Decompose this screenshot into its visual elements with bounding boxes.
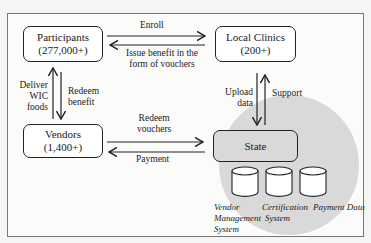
deliver-label: Deliver WIC foods (13, 80, 48, 113)
upload-label: Upload data (222, 87, 253, 109)
redeem-benefit-line-2: benefit (68, 97, 99, 108)
vendor-db-line-1: Vendor (214, 202, 261, 213)
vendor-db-label: Vendor Management System (214, 202, 261, 235)
payment-db-label: Payment Data (313, 202, 365, 213)
vendor-db-icon (230, 166, 260, 198)
upload-line-1: Upload (222, 87, 253, 98)
upload-line-2: data (222, 98, 253, 109)
redeem-benefit-label: Redeem benefit (68, 86, 99, 108)
vendor-db-line-2: Management (214, 213, 261, 224)
redeem-benefit-line-1: Redeem (68, 86, 99, 97)
certification-db-icon (264, 166, 294, 198)
enroll-label: Enroll (140, 20, 164, 31)
redeem-vouchers-line-2: vouchers (137, 124, 171, 135)
issue-benefit-label: Issue benefit in the form of vouchers (126, 48, 198, 70)
redeem-vouchers-label: Redeem vouchers (137, 113, 171, 135)
deliver-line-2: WIC (13, 91, 48, 102)
payment-db-line-1: Payment Data (313, 202, 365, 213)
support-label: Support (272, 88, 302, 99)
certification-db-line-2: System (262, 213, 308, 224)
issue-benefit-line-1: Issue benefit in the (126, 48, 198, 59)
deliver-line-3: foods (13, 102, 48, 113)
certification-db-line-1: Certification (262, 202, 308, 213)
payment-label: Payment (136, 154, 169, 165)
vendor-db-line-3: System (214, 224, 261, 235)
deliver-line-1: Deliver (13, 80, 48, 91)
issue-benefit-line-2: form of vouchers (126, 59, 198, 70)
payment-db-icon (298, 166, 328, 198)
certification-db-label: Certification System (262, 202, 308, 224)
redeem-vouchers-line-1: Redeem (137, 113, 171, 124)
